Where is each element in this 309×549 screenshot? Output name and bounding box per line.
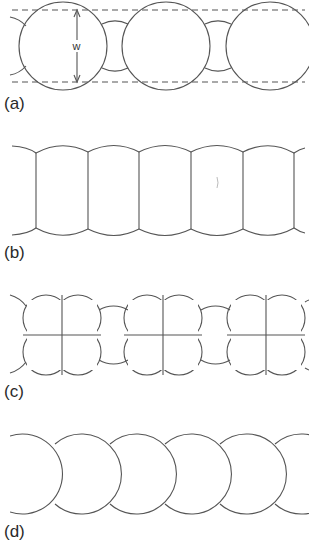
circle <box>55 434 121 514</box>
small-sphere <box>205 21 231 24</box>
panel-d-drawing <box>0 410 309 520</box>
large-sphere <box>19 2 107 90</box>
panel-b-drawing <box>0 135 309 245</box>
cell-quartet <box>227 295 305 375</box>
cell-quartet <box>124 295 202 375</box>
circle <box>275 434 309 514</box>
circle <box>220 434 286 514</box>
circle <box>165 434 231 514</box>
large-sphere <box>226 2 309 90</box>
width-label: w <box>72 40 81 52</box>
panel-b: (b) <box>0 135 309 270</box>
panel-c-drawing <box>0 270 309 380</box>
small-sphere <box>102 21 128 24</box>
panel-label: (c) <box>4 382 24 402</box>
panel-label: (d) <box>4 522 25 542</box>
panel-a-drawing: w <box>0 0 309 100</box>
circle <box>110 434 176 514</box>
panel-a: w (a) <box>0 0 309 135</box>
large-sphere <box>122 2 210 90</box>
panel-label: (b) <box>4 243 25 263</box>
panel-d: (d) <box>0 410 309 549</box>
panel-c: (c) <box>0 270 309 410</box>
cell-quartet <box>23 295 101 375</box>
circle <box>10 434 62 514</box>
panel-label: (a) <box>4 94 25 114</box>
